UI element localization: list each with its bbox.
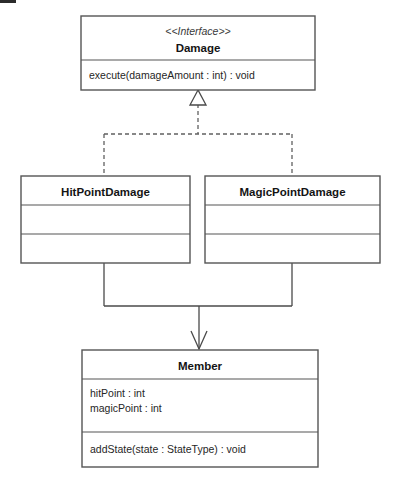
uml-canvas: <<Interface>> Damage execute(damageAmoun… xyxy=(0,0,397,490)
realization-edge-group xyxy=(104,90,292,176)
hollow-triangle-arrowhead-icon xyxy=(190,90,206,105)
class-member-attribute-1: magicPoint : int xyxy=(90,402,162,414)
class-damage-operation-0: execute(damageAmount : int) : void xyxy=(89,69,255,81)
class-damage-stereotype: <<Interface>> xyxy=(165,25,230,37)
uml-class-diagram: <<Interface>> Damage execute(damageAmoun… xyxy=(0,0,397,490)
class-member-attribute-0: hitPoint : int xyxy=(90,387,145,399)
class-box-magicpointdamage[interactable]: MagicPointDamage xyxy=(205,176,380,263)
class-box-damage[interactable]: <<Interface>> Damage execute(damageAmoun… xyxy=(81,16,315,90)
corner-artifact-mark xyxy=(0,0,16,3)
class-hitpointdamage-name: HitPointDamage xyxy=(61,186,150,198)
class-box-member[interactable]: Member hitPoint : int magicPoint : int a… xyxy=(82,350,318,467)
class-damage-name: Damage xyxy=(176,42,221,54)
class-magicpointdamage-name: MagicPointDamage xyxy=(239,186,345,198)
class-box-hitpointdamage[interactable]: HitPointDamage xyxy=(21,176,190,263)
dependency-edge-group xyxy=(104,263,292,349)
class-member-name: Member xyxy=(178,360,223,372)
class-member-operation-0: addState(state : StateType) : void xyxy=(90,443,246,455)
